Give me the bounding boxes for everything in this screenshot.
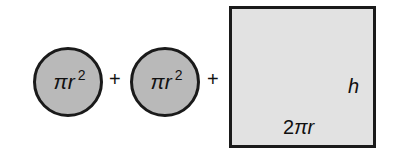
lateral-rectangle: h 2πr xyxy=(229,6,376,148)
height-label: h xyxy=(348,75,359,98)
plus-sign-2: + xyxy=(207,68,219,91)
plus-sign-1: + xyxy=(109,68,121,91)
circle-top-label: πr2 xyxy=(54,70,83,94)
circle-bottom-label: πr2 xyxy=(151,70,180,94)
width-label: 2πr xyxy=(283,116,314,139)
circle-bottom: πr2 xyxy=(130,47,200,117)
circle-top: πr2 xyxy=(33,47,103,117)
